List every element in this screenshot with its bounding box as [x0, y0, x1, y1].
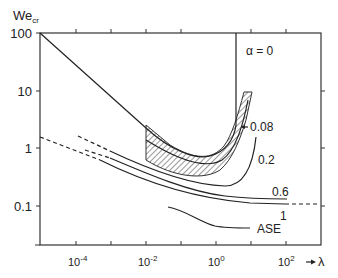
y-tick-100: 100 — [10, 26, 32, 41]
x-axis-arrow-head — [311, 260, 316, 265]
x-tick-1e-4: 10-4 — [68, 254, 88, 268]
label-alpha-0: α = 0 — [246, 44, 274, 58]
curve-ase — [168, 207, 250, 228]
label-0.2: 0.2 — [258, 153, 275, 167]
label-1: 1 — [280, 209, 287, 223]
y-tick-1: 1 — [25, 141, 32, 156]
y-tick-10: 10 — [18, 84, 32, 99]
label-0.6: 0.6 — [272, 185, 289, 199]
plot-frame — [40, 33, 321, 245]
label-ase: ASE — [257, 222, 281, 236]
x-tick-1e2: 102 — [278, 254, 295, 268]
y-ticks — [36, 33, 325, 206]
label-0.08: 0.08 — [250, 120, 274, 134]
curve-alpha-0 — [40, 33, 236, 157]
y-tick-0.1: 0.1 — [14, 199, 32, 214]
y-axis-title: Wecr — [13, 8, 39, 25]
x-axis-title: λ — [318, 254, 325, 269]
chart: α = 0 0.08 0.2 0.6 1 ASE 100 10 1 0.1 We… — [0, 0, 338, 278]
x-tick-1e0: 100 — [208, 254, 225, 268]
x-tick-1e-2: 10-2 — [138, 254, 158, 268]
